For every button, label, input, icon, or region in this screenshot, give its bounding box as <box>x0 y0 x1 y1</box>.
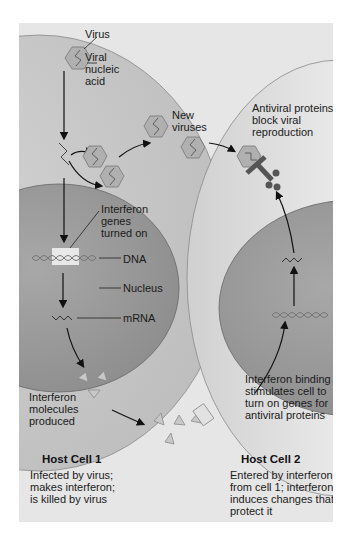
host-cell-1-description: Infected by virus; makes interferon; is … <box>30 469 115 505</box>
interferon-receptor-icon <box>193 404 214 426</box>
label-nucleus: Nucleus <box>123 282 163 294</box>
host-cell-2-title: Host Cell 2 <box>241 453 300 465</box>
label-antiviral-proteins: Antiviral proteins block viral reproduct… <box>252 102 333 138</box>
host-cell-1-title: Host Cell 1 <box>42 453 101 465</box>
label-dna: DNA <box>123 253 146 265</box>
figure-panel: Virus Viral nucleic acid New viruses Ant… <box>19 23 333 522</box>
diagram-artwork <box>19 23 333 522</box>
label-new-viruses: New viruses <box>172 109 207 133</box>
label-mrna: mRNA <box>123 312 155 324</box>
label-viral-nucleic-acid: Viral nucleic acid <box>85 51 119 87</box>
host-cell-2-description: Entered by interferon from cell 1; inter… <box>230 469 333 517</box>
label-interferon-molecules: Interferon molecules produced <box>29 391 79 427</box>
label-interferon-binding: Interferon binding stimulates cell to tu… <box>245 373 331 421</box>
label-interferon-genes: Interferon genes turned on <box>101 203 148 239</box>
label-virus: Virus <box>85 28 110 40</box>
